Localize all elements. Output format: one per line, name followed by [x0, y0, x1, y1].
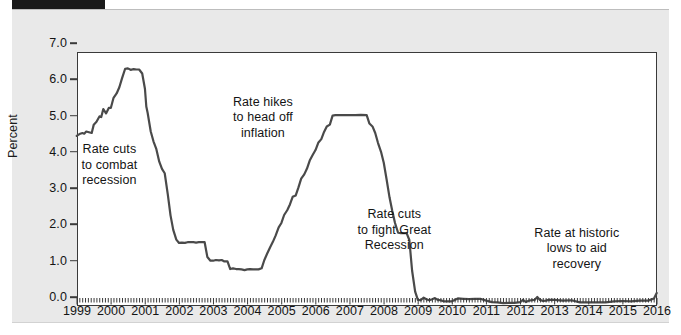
annotation-line: Rate cuts: [82, 142, 138, 158]
annotation-line: to head off: [233, 110, 293, 126]
annotation-line: Rate at historic: [534, 226, 619, 242]
annotation-rate-cuts-great-recession: Rate cutsto fight GreatRecession: [357, 207, 431, 254]
y-tick-mark: [70, 151, 77, 153]
y-tick-mark: [70, 42, 77, 44]
figure-panel: Percent 0.01.02.03.04.05.06.07.0 1999200…: [12, 9, 669, 323]
y-tick-mark: [70, 260, 77, 262]
y-tick-label: 2.0: [12, 217, 67, 231]
annotation-rate-cuts-recession: Rate cutsto combatrecession: [82, 142, 138, 189]
figure-root: Percent 0.01.02.03.04.05.06.07.0 1999200…: [0, 0, 681, 335]
header-tab-marker: [12, 0, 105, 9]
y-tick-label: 3.0: [12, 181, 67, 195]
annotation-line: Rate hikes: [233, 95, 293, 111]
annotation-rate-hikes-inflation: Rate hikesto head offinflation: [233, 95, 293, 142]
annotation-line: to fight Great: [357, 223, 431, 239]
annotation-line: Recession: [357, 238, 431, 254]
annotation-line: lows to aid: [534, 241, 619, 257]
y-tick-mark: [70, 78, 77, 80]
y-tick-label: 1.0: [12, 254, 67, 268]
y-tick-mark: [70, 115, 77, 117]
y-tick-label: 5.0: [12, 109, 67, 123]
annotation-line: to combat: [82, 158, 138, 174]
annotation-line: Rate cuts: [357, 207, 431, 223]
y-tick-label: 0.0: [12, 290, 67, 304]
y-tick-label: 4.0: [12, 145, 67, 159]
y-tick-mark: [70, 224, 77, 226]
annotation-line: recession: [82, 173, 138, 189]
y-tick-mark: [70, 187, 77, 189]
annotation-line: inflation: [233, 126, 293, 142]
annotation-line: recovery: [534, 257, 619, 273]
y-tick-label: 7.0: [12, 36, 67, 50]
annotation-rate-historic-lows: Rate at historiclows to aidrecovery: [534, 226, 619, 273]
y-tick-label: 6.0: [12, 72, 67, 86]
